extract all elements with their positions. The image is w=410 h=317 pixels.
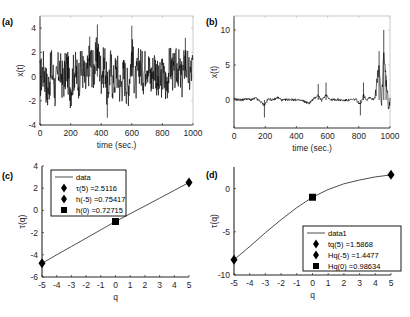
- x-tick-label: -3: [262, 278, 270, 288]
- legend-entry: data1: [328, 229, 347, 238]
- x-tick-label: -4: [246, 278, 254, 288]
- panel-label: (d): [206, 170, 218, 180]
- figure-canvas: 02004006008001000-4-2024time (sec.)x(t)(…: [0, 0, 410, 317]
- panel-label: (b): [206, 17, 218, 27]
- x-tick-label: -1: [293, 278, 301, 288]
- x-tick-label: 1: [128, 280, 133, 290]
- x-tick-label: -1: [97, 280, 105, 290]
- figure: 02004006008001000-4-2024time (sec.)x(t)(…: [0, 0, 410, 317]
- y-tick-label: -6: [30, 272, 38, 282]
- x-tick-label: -3: [68, 280, 76, 290]
- y-tick-label: 2: [31, 47, 36, 57]
- legend: dataτ(5) =2.5116h(-5) =0.75417h(0) =0.72…: [51, 170, 126, 216]
- x-tick-label: 0: [232, 131, 237, 141]
- x-tick-label: -2: [82, 280, 90, 290]
- y-axis-label: x(t): [15, 64, 25, 76]
- y-tick-label: 0: [33, 205, 38, 215]
- legend-entry: Hq(0) =0.98634: [328, 262, 380, 271]
- x-tick-label: 4: [172, 280, 177, 290]
- x-tick-label: 4: [373, 278, 378, 288]
- diamond-marker: [186, 178, 193, 188]
- y-tick-label: 0: [225, 184, 230, 194]
- panel-a-timeseries: 02004006008001000-4-2024time (sec.)x(t)(…: [2, 16, 203, 150]
- x-tick-label: -5: [38, 280, 46, 290]
- panel-d-tau-plot: -5-4-3-2-1012345-10-50qτ(q)(d)data1tq(5)…: [206, 167, 401, 300]
- x-tick-label: 200: [258, 131, 272, 141]
- x-tick-label: 800: [155, 128, 169, 138]
- y-tick-label: 0: [225, 95, 230, 105]
- x-tick-label: 600: [321, 131, 335, 141]
- y-tick-label: -4: [30, 250, 38, 260]
- legend-entry: data: [76, 173, 91, 182]
- panel-b-timeseries: 020040060080010000510time (sec.)x(t)(b): [206, 16, 400, 153]
- x-tick-label: 3: [357, 278, 362, 288]
- y-tick-label: -10: [218, 270, 231, 280]
- y-tick-label: 0: [31, 72, 36, 82]
- y-tick-label: 4: [33, 161, 38, 171]
- x-tick-label: 200: [64, 128, 78, 138]
- legend-entry: h(-5) =0.75417: [76, 195, 125, 204]
- x-tick-label: 5: [389, 278, 394, 288]
- x-tick-label: 3: [157, 280, 162, 290]
- x-tick-label: -5: [230, 278, 238, 288]
- legend-entry: Hq(-5) =1.4477: [328, 251, 379, 260]
- square-marker: [309, 194, 316, 201]
- x-axis-label: q: [113, 292, 118, 302]
- x-axis-label: time (sec.): [292, 143, 332, 153]
- x-axis-label: q: [310, 290, 315, 300]
- legend-entry: τ(5) =2.5116: [76, 184, 117, 193]
- square-marker: [112, 218, 119, 225]
- x-tick-label: 0: [38, 128, 43, 138]
- legend: data1tq(5) =1.5868Hq(-5) =1.4477Hq(0) =0…: [303, 226, 401, 271]
- panel-c-tau-plot: -5-4-3-2-1012345-6-4-2024qτ(q)(c)dataτ(5…: [2, 161, 193, 302]
- y-tick-label: 10: [221, 25, 231, 35]
- x-tick-label: 1000: [184, 128, 203, 138]
- x-tick-label: 400: [289, 131, 303, 141]
- axes-box: [234, 16, 390, 128]
- y-tick-label: -2: [28, 96, 36, 106]
- panel-label: (c): [2, 171, 13, 181]
- x-tick-label: 0: [310, 278, 315, 288]
- x-tick-label: 800: [352, 131, 366, 141]
- legend-square-swatch: [313, 263, 319, 269]
- legend-entry: h(0) =0.72715: [76, 206, 123, 215]
- x-tick-label: 1: [326, 278, 331, 288]
- x-tick-label: 0: [113, 280, 118, 290]
- x-tick-label: 400: [94, 128, 108, 138]
- diamond-marker: [388, 170, 395, 180]
- x-tick-label: -4: [53, 280, 61, 290]
- y-axis-label: τ(q): [209, 214, 219, 228]
- x-tick-label: 2: [342, 278, 347, 288]
- x-tick-label: 1000: [381, 131, 400, 141]
- x-axis-label: time (sec.): [97, 140, 137, 150]
- y-axis-label: x(t): [209, 66, 219, 78]
- y-tick-label: 2: [33, 183, 38, 193]
- panel-label: (a): [2, 17, 13, 27]
- y-tick-label: -5: [222, 227, 230, 237]
- legend-square-swatch: [61, 207, 67, 213]
- y-tick-label: -4: [28, 120, 36, 130]
- y-tick-label: 4: [31, 23, 36, 33]
- x-tick-label: -2: [277, 278, 285, 288]
- diamond-marker: [231, 255, 238, 265]
- x-tick-label: 600: [125, 128, 139, 138]
- y-tick-label: 5: [225, 60, 230, 70]
- y-tick-label: -2: [30, 228, 38, 238]
- y-axis-label: τ(q): [17, 214, 27, 228]
- x-tick-label: 5: [187, 280, 192, 290]
- x-tick-label: 2: [143, 280, 148, 290]
- legend-entry: tq(5) =1.5868: [328, 240, 373, 249]
- diamond-marker: [39, 258, 46, 268]
